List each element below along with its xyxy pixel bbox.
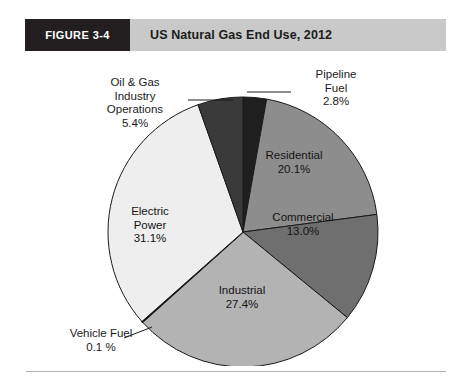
figure-number-block: FIGURE 3-4 bbox=[25, 19, 130, 51]
pie-label-electric-power: Electric Power 31.1% bbox=[108, 205, 192, 246]
figure-title: US Natural Gas End Use, 2012 bbox=[150, 28, 332, 42]
pie-label-pipeline-fuel: Pipeline Fuel 2.8% bbox=[292, 68, 380, 109]
pie-label-industrial: Industrial 27.4% bbox=[196, 284, 288, 311]
pie-chart-graphic bbox=[0, 56, 469, 366]
figure-header: FIGURE 3-4 US Natural Gas End Use, 2012 bbox=[25, 19, 446, 51]
figure-number-label: FIGURE 3-4 bbox=[45, 29, 110, 41]
pie-label-commercial: Commercial 13.0% bbox=[255, 211, 351, 238]
footer-divider bbox=[26, 371, 446, 372]
pie-label-vehicle-fuel: Vehicle Fuel 0.1 % bbox=[49, 327, 153, 354]
pie-label-oil-gas-industry-operations: Oil & Gas Industry Operations 5.4% bbox=[83, 76, 187, 130]
pie-chart-area: Oil & Gas Industry Operations 5.4% Pipel… bbox=[0, 56, 469, 366]
pie-label-residential: Residential 20.1% bbox=[248, 149, 340, 176]
figure-title-block: US Natural Gas End Use, 2012 bbox=[130, 19, 446, 51]
